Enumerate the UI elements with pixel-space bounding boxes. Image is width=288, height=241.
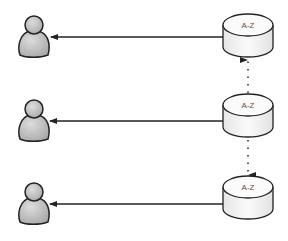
- database-label: A-Z: [242, 101, 255, 110]
- database-icon: A-Z: [223, 94, 273, 137]
- diagram-canvas: A-Z A-Z A-Z: [0, 0, 288, 241]
- database-label: A-Z: [242, 21, 255, 30]
- person-icon: [19, 100, 49, 141]
- database-icon: A-Z: [223, 14, 273, 57]
- person-icon: [19, 183, 49, 224]
- person-icon: [19, 16, 49, 57]
- database-icon: A-Z: [223, 176, 273, 219]
- database-label: A-Z: [242, 183, 255, 192]
